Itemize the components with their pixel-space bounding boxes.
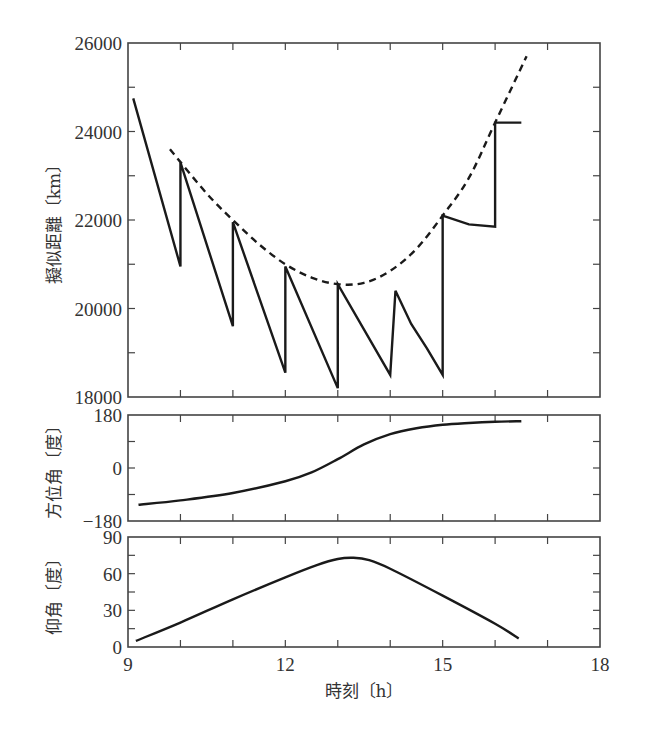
pseudorange-ylabel: 擬似距離〔km〕	[44, 156, 64, 284]
x-axis-label: 時刻〔h〕	[325, 681, 404, 701]
azimuth-series	[138, 421, 521, 505]
x-tick-label: 15	[433, 654, 452, 675]
azimuth-panel: −1800180 方位角〔度〕	[44, 405, 600, 532]
azimuth-line	[138, 421, 521, 505]
y-tick-label: 26000	[75, 33, 123, 54]
measured-pseudorange-line	[133, 98, 521, 388]
elevation-xtick-labels: 9121518	[123, 654, 609, 675]
elevation-ticks	[128, 537, 600, 647]
y-tick-label: 0	[113, 458, 123, 479]
y-tick-label: 90	[103, 527, 122, 548]
y-tick-label: 22000	[75, 210, 123, 231]
azimuth-ylabel: 方位角〔度〕	[44, 417, 64, 519]
elevation-ylabel: 仰角〔度〕	[44, 550, 64, 635]
x-tick-label: 12	[276, 654, 295, 675]
figure: 1800020000220002400026000 擬似距離〔km〕 −1800…	[0, 0, 645, 735]
x-tick-label: 18	[591, 654, 610, 675]
pseudorange-ytick-labels: 1800020000220002400026000	[75, 33, 123, 408]
pseudorange-panel: 1800020000220002400026000 擬似距離〔km〕	[44, 33, 600, 408]
elevation-panel: 0306090 9121518 仰角〔度〕 時刻〔h〕	[44, 527, 610, 701]
y-tick-label: 60	[103, 564, 122, 585]
elevation-ytick-labels: 0306090	[103, 527, 122, 658]
y-tick-label: 24000	[75, 122, 123, 143]
azimuth-ytick-labels: −1800180	[83, 405, 122, 532]
y-tick-label: 20000	[75, 299, 123, 320]
x-tick-label: 9	[123, 654, 133, 675]
azimuth-frame	[128, 415, 600, 521]
y-tick-label: 0	[113, 637, 123, 658]
azimuth-ticks	[128, 415, 600, 521]
elevation-frame	[128, 537, 600, 647]
true-range-line	[170, 56, 527, 284]
y-tick-label: 180	[94, 405, 123, 426]
pseudorange-series	[133, 56, 526, 388]
elevation-series	[136, 558, 519, 641]
y-tick-label: 30	[103, 600, 122, 621]
elevation-line	[136, 558, 519, 641]
